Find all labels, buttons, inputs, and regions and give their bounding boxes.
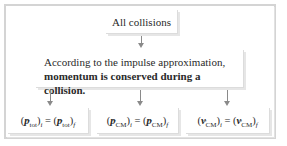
vector-v: v bbox=[237, 115, 242, 126]
arrow-down-icon bbox=[141, 36, 142, 44]
equals-sign: = bbox=[45, 115, 51, 126]
momentum-conserved-text: momentum is conserved during a collision… bbox=[44, 69, 243, 97]
vector-p: p bbox=[24, 115, 29, 126]
vector-p: p bbox=[57, 115, 62, 126]
impulse-approximation-box: According to the impulse approximation, … bbox=[36, 50, 244, 88]
arrow-down-icon bbox=[227, 90, 228, 102]
arrow-down-icon bbox=[50, 90, 51, 102]
vector-p: p bbox=[147, 115, 152, 126]
cm-momentum-equation-box: (pCM)i = (pCM)f bbox=[97, 108, 179, 134]
cm-velocity-equation-box: (vCM)i = (vCM)f bbox=[186, 108, 270, 134]
subscript-initial: i bbox=[40, 121, 42, 129]
total-momentum-equation-box: (ptot)i = (ptot)f bbox=[8, 108, 89, 134]
vector-p: p bbox=[110, 115, 115, 126]
subscript-final: f bbox=[73, 121, 75, 129]
arrow-down-icon bbox=[140, 90, 141, 102]
all-collisions-box: All collisions bbox=[106, 10, 178, 34]
subscript-final: f bbox=[166, 121, 168, 129]
subscript-initial: i bbox=[220, 121, 222, 129]
subscript-final: f bbox=[256, 121, 258, 129]
subscript-initial: i bbox=[130, 121, 132, 129]
equals-sign: = bbox=[135, 115, 141, 126]
all-collisions-label: All collisions bbox=[112, 16, 171, 28]
impulse-approximation-text: According to the impulse approximation, bbox=[44, 55, 243, 69]
equals-sign: = bbox=[225, 115, 231, 126]
vector-v: v bbox=[201, 115, 206, 126]
